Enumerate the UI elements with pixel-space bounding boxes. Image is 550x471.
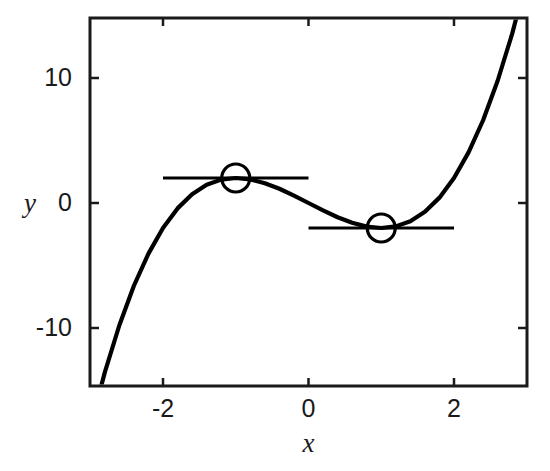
y-axis-title: y (24, 188, 36, 219)
y-tick-label--10: -10 (10, 313, 72, 342)
x-tick-label-2: 2 (434, 394, 474, 423)
x-tick-label--2: -2 (143, 394, 183, 423)
x-tick-label-0: 0 (289, 394, 329, 423)
y-tick-label-10: 10 (10, 63, 72, 92)
figure-canvas: 10 0 -10 -2 0 2 y x (0, 0, 550, 471)
x-axis-title: x (289, 428, 329, 459)
y-tick-label-0: 0 (10, 188, 72, 217)
